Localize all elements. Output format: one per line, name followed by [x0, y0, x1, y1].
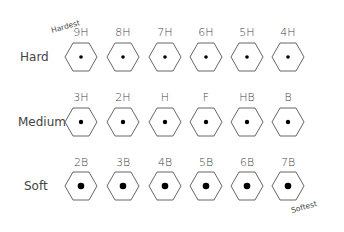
lead-dot-icon — [121, 55, 125, 59]
pencil-hardness-diagram: Hardest Softest Hard9H8H7H6H5H4HMedium3H… — [0, 0, 344, 232]
grade-label: 2H — [115, 91, 130, 104]
lead-dot-icon — [244, 183, 251, 190]
pencil-grade-6h: 6H — [190, 26, 222, 71]
pencil-grade-5b: 5B — [190, 156, 222, 200]
lead-dot-icon — [121, 120, 125, 124]
lead-dot-icon — [78, 183, 85, 190]
row-medium: Medium3H2HHFHBB — [18, 91, 304, 136]
grade-label: 5B — [199, 156, 213, 169]
grade-label: 6B — [240, 156, 254, 169]
lead-dot-icon — [204, 120, 208, 124]
lead-dot-icon — [79, 120, 83, 124]
pencil-grade-7h: 7H — [149, 26, 181, 71]
row-label: Medium — [18, 115, 66, 129]
grade-label: 9H — [73, 26, 88, 39]
grade-label: 3B — [116, 156, 130, 169]
pencil-grade-2b: 2B — [65, 156, 97, 200]
lead-dot-icon — [120, 183, 127, 190]
grade-label: H — [161, 91, 169, 104]
pencil-grade-2h: 2H — [107, 91, 139, 136]
lead-dot-icon — [286, 120, 290, 124]
lead-dot-icon — [204, 55, 208, 59]
pencil-grade-8h: 8H — [107, 26, 139, 71]
grade-label: F — [203, 91, 209, 104]
lead-dot-icon — [245, 55, 249, 59]
pencil-grade-3b: 3B — [107, 156, 139, 200]
pencil-grade-b: B — [272, 91, 304, 136]
grade-label: 8H — [115, 26, 130, 39]
lead-dot-icon — [203, 183, 210, 190]
pencil-grade-9h: 9H — [65, 26, 97, 71]
grade-label: B — [284, 91, 291, 104]
grade-label: 4B — [158, 156, 172, 169]
lead-dot-icon — [79, 55, 83, 59]
grade-label: 4H — [280, 26, 295, 39]
lead-dot-icon — [163, 120, 167, 124]
grade-label: 6H — [198, 26, 213, 39]
grade-label: 7B — [281, 156, 295, 169]
softest-annotation: Softest — [290, 199, 318, 215]
grade-label: 2B — [74, 156, 88, 169]
grade-label: 7H — [157, 26, 172, 39]
row-soft: Soft2B3B4B5B6B7B — [24, 156, 304, 200]
pencil-grade-f: F — [190, 91, 222, 136]
pencil-grade-3h: 3H — [65, 91, 97, 136]
row-hard: Hard9H8H7H6H5H4H — [20, 26, 304, 71]
grade-label: HB — [239, 91, 254, 104]
row-label: Hard — [20, 50, 49, 64]
lead-dot-icon — [163, 55, 167, 59]
grade-label: 5H — [239, 26, 254, 39]
pencil-grade-7b: 7B — [272, 156, 304, 200]
pencil-grade-6b: 6B — [231, 156, 263, 200]
grade-label: 3H — [73, 91, 88, 104]
lead-dot-icon — [162, 183, 169, 190]
pencil-grade-4h: 4H — [272, 26, 304, 71]
pencil-grade-hb: HB — [231, 91, 263, 136]
lead-dot-icon — [285, 183, 292, 190]
lead-dot-icon — [245, 120, 249, 124]
pencil-grade-h: H — [149, 91, 181, 136]
pencil-grade-5h: 5H — [231, 26, 263, 71]
lead-dot-icon — [286, 55, 290, 59]
row-label: Soft — [24, 179, 48, 193]
pencil-grade-4b: 4B — [149, 156, 181, 200]
